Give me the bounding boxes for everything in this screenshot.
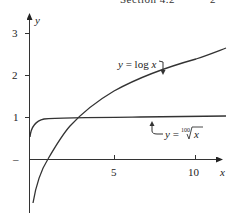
x-ticks: 5 10: [111, 155, 200, 178]
y-tick-3: 3: [12, 27, 18, 39]
log-curve-label: y = log x: [117, 58, 156, 70]
y-tick-1: 1: [13, 111, 19, 123]
root-index: 100: [181, 127, 190, 133]
log-root-figure: y x 3 2 1 – 5 10 y = log x y = 100 x: [0, 0, 236, 224]
root-radicand: x: [193, 128, 199, 140]
y-ticks: 3 2 1 –: [12, 27, 30, 165]
y-tick-0: –: [12, 153, 19, 165]
log-curve: [33, 48, 226, 203]
x-tick-5: 5: [111, 166, 117, 178]
x-tick-10: 10: [188, 166, 200, 178]
x-axis-label: x: [219, 166, 225, 178]
root-curve-label: y =: [164, 128, 179, 140]
y-tick-2: 2: [12, 69, 18, 81]
y-axis-label: y: [34, 14, 40, 26]
